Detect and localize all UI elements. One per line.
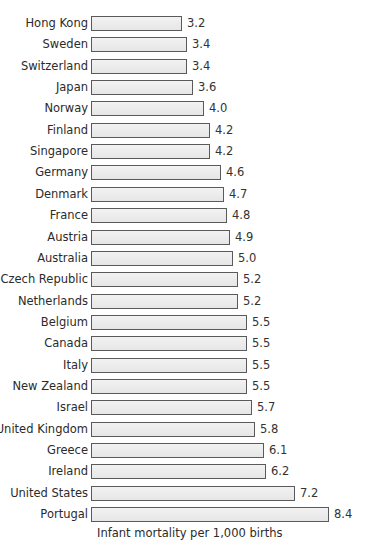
category-label: Denmark [35, 187, 88, 202]
category-label: United States [10, 486, 88, 501]
bar [91, 16, 182, 31]
bar-row: New Zealand5.5 [0, 379, 371, 394]
category-label: Finland [47, 123, 88, 138]
value-label: 8.4 [334, 507, 352, 522]
bar [91, 507, 329, 522]
x-axis-title: Infant mortality per 1,000 births [97, 526, 282, 540]
bar [91, 400, 252, 415]
bar-row: Belgium5.5 [0, 315, 371, 330]
value-label: 5.8 [260, 422, 278, 437]
bar [91, 230, 230, 245]
bar [91, 37, 187, 52]
category-label: Norway [44, 101, 88, 116]
bar-row: Israel5.7 [0, 400, 371, 415]
value-label: 4.8 [232, 208, 250, 223]
value-label: 4.2 [215, 144, 233, 159]
bar [91, 123, 210, 138]
bar [91, 315, 247, 330]
category-label: Hong Kong [25, 16, 88, 31]
bar [91, 144, 210, 159]
value-label: 5.2 [243, 272, 261, 287]
value-label: 5.5 [252, 336, 270, 351]
bar-row: Norway4.0 [0, 101, 371, 116]
category-label: Switzerland [21, 59, 88, 74]
value-label: 7.2 [300, 486, 318, 501]
value-label: 6.2 [271, 464, 289, 479]
bar-row: Denmark4.7 [0, 187, 371, 202]
value-label: 5.7 [257, 400, 275, 415]
category-label: Singapore [30, 144, 88, 159]
bar-row: United Kingdom5.8 [0, 422, 371, 437]
bar [91, 422, 255, 437]
bar-row: Singapore4.2 [0, 144, 371, 159]
bar [91, 165, 221, 180]
category-label: Greece [47, 443, 88, 458]
category-label: Ireland [48, 464, 88, 479]
category-label: United Kingdom [0, 422, 88, 437]
category-label: Israel [57, 400, 88, 415]
value-label: 3.4 [192, 59, 210, 74]
bar-row: Canada5.5 [0, 336, 371, 351]
value-label: 4.6 [226, 165, 244, 180]
bar-row: United States7.2 [0, 486, 371, 501]
bar [91, 294, 238, 309]
category-label: Japan [56, 80, 88, 95]
value-label: 5.5 [252, 315, 270, 330]
bar-row: Japan3.6 [0, 80, 371, 95]
bar-row: Germany4.6 [0, 165, 371, 180]
value-label: 4.7 [229, 187, 247, 202]
category-label: Portugal [40, 507, 88, 522]
bar [91, 379, 247, 394]
category-label: Sweden [43, 37, 88, 52]
bar [91, 251, 233, 266]
category-label: Australia [37, 251, 88, 266]
bar-row: Netherlands5.2 [0, 294, 371, 309]
category-label: Netherlands [18, 294, 88, 309]
value-label: 5.2 [243, 294, 261, 309]
bar [91, 336, 247, 351]
value-label: 4.2 [215, 123, 233, 138]
bar [91, 101, 204, 116]
bar-row: Australia5.0 [0, 251, 371, 266]
value-label: 5.5 [252, 379, 270, 394]
bar [91, 208, 227, 223]
bar-row: France4.8 [0, 208, 371, 223]
bar-row: Finland4.2 [0, 123, 371, 138]
bar [91, 80, 193, 95]
bar-row: Italy5.5 [0, 358, 371, 373]
bar-row: Czech Republic5.2 [0, 272, 371, 287]
value-label: 5.0 [238, 251, 256, 266]
value-label: 3.2 [187, 16, 205, 31]
category-label: Germany [35, 165, 88, 180]
bar [91, 59, 187, 74]
bar-chart: Infant mortality per 1,000 births Hong K… [0, 0, 371, 557]
bar [91, 358, 247, 373]
bar [91, 486, 295, 501]
category-label: Austria [47, 230, 88, 245]
bar-row: Switzerland3.4 [0, 59, 371, 74]
category-label: France [50, 208, 88, 223]
value-label: 5.5 [252, 358, 270, 373]
bar [91, 272, 238, 287]
value-label: 4.9 [235, 230, 253, 245]
value-label: 6.1 [269, 443, 287, 458]
category-label: Italy [63, 358, 88, 373]
value-label: 3.4 [192, 37, 210, 52]
category-label: Czech Republic [0, 272, 88, 287]
category-label: Belgium [41, 315, 88, 330]
bar [91, 464, 266, 479]
bar-row: Ireland6.2 [0, 464, 371, 479]
value-label: 3.6 [198, 80, 216, 95]
bar [91, 187, 224, 202]
category-label: Canada [44, 336, 88, 351]
value-label: 4.0 [209, 101, 227, 116]
bar-row: Greece6.1 [0, 443, 371, 458]
bar-row: Portugal8.4 [0, 507, 371, 522]
category-label: New Zealand [12, 379, 88, 394]
bar-row: Hong Kong3.2 [0, 16, 371, 31]
bar-row: Austria4.9 [0, 230, 371, 245]
bar-row: Sweden3.4 [0, 37, 371, 52]
bar [91, 443, 264, 458]
